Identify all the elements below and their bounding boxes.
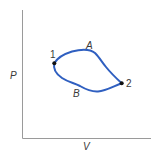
path-b-curve <box>54 63 122 91</box>
point-2-label: 2 <box>126 79 132 89</box>
point-1-label: 1 <box>50 50 56 60</box>
y-axis-label: P <box>10 71 17 81</box>
path-a-label: A <box>86 41 93 51</box>
path-b-label: B <box>73 89 80 99</box>
x-axis-label: V <box>83 142 90 152</box>
pv-diagram <box>0 0 158 154</box>
point-2-marker <box>120 81 124 85</box>
point-1-marker <box>52 61 56 65</box>
